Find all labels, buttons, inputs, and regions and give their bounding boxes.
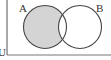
set-a-label: A — [19, 2, 27, 14]
venn-diagram: A B U — [0, 0, 111, 60]
universe-label: U — [0, 46, 6, 58]
set-b-label: B — [96, 2, 103, 14]
